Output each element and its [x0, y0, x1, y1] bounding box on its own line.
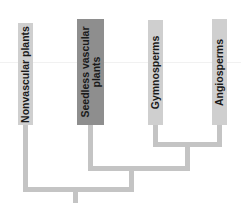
node-vascular-plants — [88, 166, 190, 171]
branch-seedless — [88, 124, 93, 171]
root-stem — [73, 187, 78, 203]
taxon-gymnosperms: Gymnosperms — [148, 20, 163, 125]
branch-nonvascular — [23, 124, 28, 192]
taxon-label: Nonvascular plants — [20, 26, 31, 123]
taxon-label: Seedless vascular plants — [80, 26, 102, 117]
background-rule — [0, 62, 241, 63]
node-land-plants — [23, 187, 134, 192]
taxon-seedless-vascular-plants: Seedless vascular plants — [77, 19, 104, 125]
taxon-nonvascular-plants: Nonvascular plants — [18, 23, 33, 125]
taxon-label: Gymnosperms — [150, 36, 161, 110]
taxon-angiosperms: Angiosperms — [212, 19, 227, 125]
taxon-label: Angiosperms — [214, 38, 225, 105]
